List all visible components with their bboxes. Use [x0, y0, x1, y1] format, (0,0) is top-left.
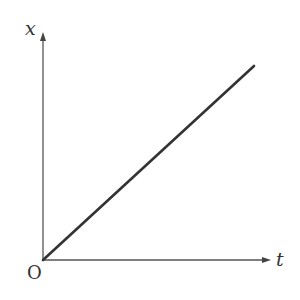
x-axis-label: t — [276, 248, 284, 270]
y-axis-label: x — [25, 17, 36, 39]
graph-line — [43, 66, 254, 260]
graph: x t O — [0, 0, 300, 300]
y-axis-arrow-icon — [40, 32, 46, 41]
origin-label: O — [27, 262, 42, 283]
x-axis-arrow-icon — [262, 257, 271, 263]
